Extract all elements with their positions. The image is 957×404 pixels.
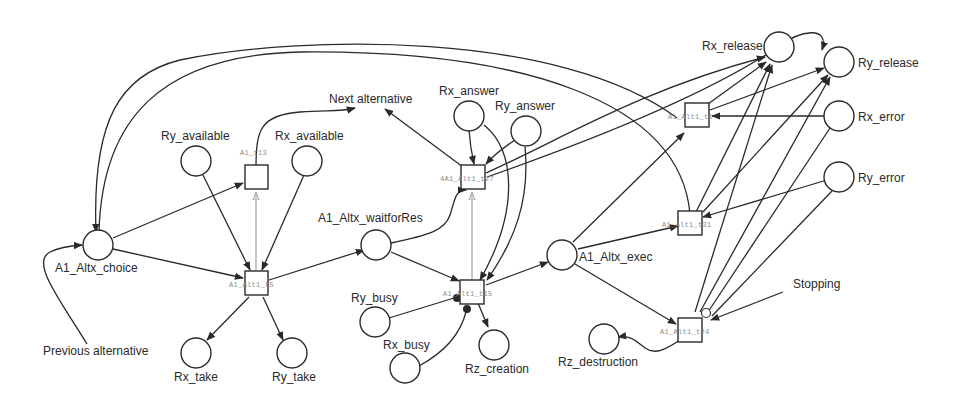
place-label: Ry_answer	[495, 99, 555, 113]
place-label: Rz_destruction	[558, 355, 638, 369]
arc-t15-to-rz-creation	[478, 303, 488, 327]
place-ry-available[interactable]: Ry_available	[161, 129, 230, 176]
place-ry-answer[interactable]: Ry_answer	[495, 99, 555, 146]
arc-t5-to-ry-take	[263, 297, 283, 340]
transition-t31[interactable]: A1_Alt1_t31	[662, 211, 712, 235]
place-rz-creation[interactable]: Rz_creation	[465, 330, 529, 376]
stopping-label: Stopping	[793, 277, 840, 291]
place-label: Rx_release	[702, 39, 763, 53]
transition-label: A1_Alt1_t31	[662, 221, 712, 229]
place-label: A1_Altx_exec	[579, 250, 652, 264]
arcs	[43, 33, 832, 366]
place-label: Rz_creation	[465, 362, 529, 376]
place-ry-take[interactable]: Ry_take	[272, 338, 316, 384]
arc-waitforres-to-t15	[391, 252, 459, 281]
place-ry-release[interactable]: Ry_release	[824, 47, 919, 77]
transition-label: 4A1_Alt1_t27	[440, 175, 494, 183]
place-rx-take[interactable]: Rx_take	[174, 338, 218, 384]
inhibitor-dot-rx-busy	[463, 305, 471, 313]
place-rx-busy[interactable]: Rx_busy	[383, 338, 430, 383]
transition-t24[interactable]: A1_Alt1_t24	[660, 318, 710, 342]
transition-label: A1_Alt1_t5	[229, 281, 274, 289]
place-a1-altx-choice[interactable]: A1_Altx_choice	[55, 230, 138, 275]
transition-label: A1_Alt1_t1	[668, 113, 713, 121]
arc-ry-available-to-t5	[203, 175, 250, 270]
arc-ry-error-to-t24	[712, 191, 832, 316]
place-label: Ry_busy	[351, 291, 398, 305]
place-label: Rx_busy	[383, 338, 430, 352]
transition-label: A1_t13	[240, 149, 267, 157]
place-label: Rx_error	[858, 110, 905, 124]
place-label: Ry_available	[161, 129, 230, 143]
arc-rx-answer-to-t27	[469, 130, 474, 164]
arc-t5-to-rx-take	[207, 297, 249, 340]
place-label: A1_Altx_waitforRes	[318, 211, 423, 225]
place-rz-destruction[interactable]: Rz_destruction	[558, 324, 638, 369]
place-label: Ry_release	[858, 56, 919, 70]
arc-exec-to-t24	[575, 264, 676, 324]
transition-t13[interactable]: A1_t13	[240, 149, 268, 189]
arc-t5-to-waitforres	[269, 250, 364, 280]
arc-ry-error-to-t31	[703, 180, 827, 217]
place-ry-busy[interactable]: Ry_busy	[351, 291, 398, 337]
place-label: Rx_available	[275, 129, 344, 143]
arc-t15-to-exec	[486, 262, 548, 285]
place-rx-answer[interactable]: Rx_answer	[439, 84, 499, 131]
arc-exec-to-t31	[578, 226, 678, 249]
transition-label: A1_Alt1_t15	[443, 290, 493, 298]
transition-t1[interactable]: A1_Alt1_t1	[668, 103, 713, 127]
arc-t24-to-rx-release	[695, 65, 772, 312]
transition-label: A1_Alt1_t24	[660, 328, 710, 336]
place-label: Rx_answer	[439, 84, 499, 98]
previous-alternative-label: Previous alternative	[43, 344, 149, 358]
arc-previous-alternative	[43, 245, 87, 344]
transition-t5[interactable]: A1_Alt1_t5	[229, 271, 274, 295]
place-rx-available[interactable]: Rx_available	[275, 129, 344, 176]
arc-t1-to-ry-release	[710, 68, 824, 110]
place-ry-error[interactable]: Ry_error	[824, 162, 905, 192]
place-label: Ry_error	[858, 171, 905, 185]
arc-ry-busy-inhibitor	[389, 298, 454, 318]
place-label: A1_Altx_choice	[55, 261, 138, 275]
arc-t24-to-rz-destruction	[618, 337, 680, 352]
place-rx-release[interactable]: Rx_release	[702, 32, 794, 62]
place-label: Ry_take	[272, 370, 316, 384]
transition-t27[interactable]: 4A1_Alt1_t27	[440, 165, 494, 189]
arc-ry-answer-to-t27	[486, 140, 515, 164]
next-alternative-label: Next alternative	[329, 92, 413, 106]
arc-choice-to-t13	[113, 183, 243, 238]
transition-t15[interactable]: A1_Alt1_t15	[443, 280, 493, 304]
place-label: Rx_take	[174, 370, 218, 384]
place-rx-error[interactable]: Rx_error	[824, 101, 905, 131]
petri-net-diagram: A1_Altx_choice Ry_available Rx_available…	[0, 0, 957, 404]
arc-t31-to-ry-release	[703, 75, 828, 212]
place-a1-altx-waitforres[interactable]: A1_Altx_waitforRes	[318, 211, 423, 260]
inhibitor-circle-stopping	[702, 309, 711, 318]
